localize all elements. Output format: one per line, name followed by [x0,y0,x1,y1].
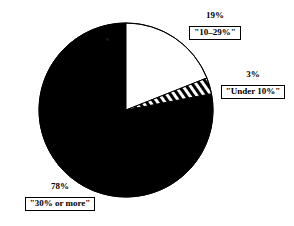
callout-30-or-more: 78% "30% or more" [12,182,108,211]
callout-30-or-more-label: "30% or more" [25,197,96,211]
callout-10-29: 19% "10–29%" [175,11,255,40]
callout-under-10: 3% "Under 10%" [212,70,294,99]
callout-10-29-label: "10–29%" [189,26,241,40]
callout-10-29-value: 19% [175,11,255,20]
callout-under-10-label: "Under 10%" [221,85,286,99]
callout-30-or-more-value: 78% [12,182,108,191]
scan-artifact-speck [106,38,109,41]
pie-chart-figure: 19% "10–29%" 3% "Under 10%" 78% "30% or … [0,0,294,226]
callout-under-10-value: 3% [212,70,294,79]
